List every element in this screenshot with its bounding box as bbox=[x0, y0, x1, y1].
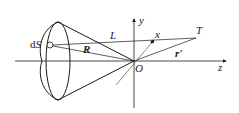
line-L bbox=[53, 38, 196, 45]
surface-element-dS bbox=[47, 42, 53, 48]
label-O: O bbox=[135, 62, 143, 74]
label-y: y bbox=[138, 14, 144, 26]
label-R: R bbox=[82, 43, 90, 55]
label-dS: dS bbox=[30, 38, 42, 50]
label-r-prime: r' bbox=[175, 47, 182, 59]
line-R bbox=[53, 46, 134, 61]
cone-diagram: dS R L y x T r' O z bbox=[0, 0, 239, 113]
label-z: z bbox=[217, 61, 223, 73]
label-T: T bbox=[196, 24, 203, 36]
x-point bbox=[151, 41, 154, 44]
label-L: L bbox=[109, 29, 116, 41]
label-x: x bbox=[154, 28, 160, 40]
line-r-prime bbox=[134, 38, 196, 61]
